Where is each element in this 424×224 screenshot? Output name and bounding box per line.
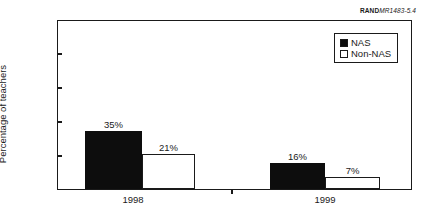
hollow-square-icon [340,50,348,58]
x-tick-label-1998: 1998 [113,194,153,205]
document-id: MR1483-5.4 [379,7,416,14]
bar-value-non-nas-1998: 21% [159,142,178,153]
bar-non-nas-1999[interactable]: 7% [325,177,380,189]
legend-label-nas: NAS [351,37,371,48]
bar-nas-1998[interactable]: 35% [85,131,142,189]
legend-entry-nas[interactable]: NAS [340,37,391,48]
x-tick-label-1999: 1999 [305,194,345,205]
bar-value-non-nas-1999: 7% [346,165,360,176]
legend-label-non-nas: Non-NAS [351,48,391,59]
filled-square-icon [340,39,348,47]
plot-area: 35% 21% 16% 7% NAS Non-NAS [57,20,412,190]
rand-brand-mark: RAND [360,7,379,14]
bar-value-nas-1999: 16% [288,151,307,162]
bar-value-nas-1998: 35% [104,119,123,130]
legend: NAS Non-NAS [334,33,398,63]
legend-entry-non-nas[interactable]: Non-NAS [340,48,391,59]
y-axis-title: Percentage of teachers [0,44,11,184]
bar-nas-1999[interactable]: 16% [270,163,325,189]
bar-non-nas-1998[interactable]: 21% [142,154,195,189]
source-credit: RANDMR1483-5.4 [360,7,416,14]
x-axis-group-separator-tick [231,189,233,194]
